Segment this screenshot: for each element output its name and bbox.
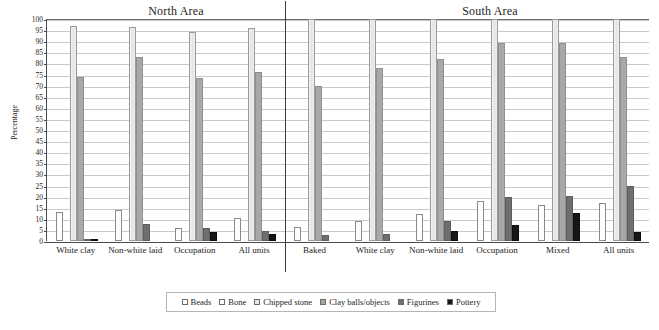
bar-pottery <box>573 213 580 241</box>
x-axis-label: Baked <box>284 245 345 256</box>
bar-group-bars <box>589 20 650 241</box>
bar-group-bars <box>285 20 346 241</box>
y-tick-label: 20 <box>17 194 43 202</box>
bar-beads <box>416 214 423 241</box>
bar-figurines <box>505 197 512 241</box>
x-axis-label: Occupation <box>467 245 528 256</box>
bar-group-bars <box>47 20 107 241</box>
y-tick-label: 5 <box>17 227 43 235</box>
y-tick-label: 65 <box>17 94 43 102</box>
legend-label: Figurines <box>407 297 439 307</box>
bar-group-bars <box>107 20 167 241</box>
y-tick-label: 75 <box>17 72 43 80</box>
panel-divider <box>285 1 286 272</box>
legend-item-figurines[interactable]: Figurines <box>398 297 439 307</box>
bar-group <box>589 20 650 241</box>
chart-container: North Area South Area Percentage 0510152… <box>0 0 659 330</box>
legend-swatch-icon <box>219 299 225 305</box>
bar-clay-balls-objects <box>620 57 627 241</box>
x-axis-label: Mixed <box>527 245 588 256</box>
bar-clay-balls-objects <box>196 78 203 241</box>
legend-swatch-icon <box>398 299 404 305</box>
legend-swatch-icon <box>182 299 188 305</box>
bar-group <box>407 20 468 241</box>
bar-figurines <box>444 221 451 241</box>
bar-beads <box>115 210 122 241</box>
legend-item-bone[interactable]: Bone <box>219 297 246 307</box>
gridline <box>47 242 649 243</box>
bar-group <box>226 20 286 241</box>
legend-label: Clay balls/objects <box>329 297 390 307</box>
y-tick-label: 40 <box>17 149 43 157</box>
panel-title-south: South Area <box>340 4 640 19</box>
bar-clay-balls-objects <box>559 43 566 241</box>
bar-beads <box>538 205 545 241</box>
bar-group <box>166 20 226 241</box>
bar-group <box>107 20 167 241</box>
bar-pottery <box>634 232 641 241</box>
bar-figurines <box>203 228 210 241</box>
y-tick-label: 25 <box>17 183 43 191</box>
bar-clay-balls-objects <box>437 59 444 241</box>
legend-swatch-icon <box>447 299 453 305</box>
y-tick-label: 70 <box>17 83 43 91</box>
y-tick-label: 0 <box>17 238 43 246</box>
y-tick-label: 95 <box>17 27 43 35</box>
bar-pottery <box>451 231 458 241</box>
bar-group-bars <box>528 20 589 241</box>
bar-chipped-stone <box>129 27 136 241</box>
bar-clay-balls-objects <box>315 86 322 241</box>
bar-clay-balls-objects <box>136 57 143 241</box>
bar-figurines <box>383 234 390 241</box>
bar-group <box>346 20 407 241</box>
y-tick-label: 30 <box>17 171 43 179</box>
legend-item-beads[interactable]: Beads <box>182 297 212 307</box>
bar-beads <box>234 218 241 241</box>
bar-chipped-stone <box>552 19 559 241</box>
legend-label: Bone <box>228 297 246 307</box>
bar-clay-balls-objects <box>77 77 84 241</box>
y-tick-label: 100 <box>17 16 43 24</box>
x-axis-label: White clay <box>345 245 406 256</box>
y-tick-label: 50 <box>17 127 43 135</box>
bar-pottery <box>512 225 519 241</box>
bar-figurines <box>143 224 150 241</box>
bar-beads <box>477 201 484 241</box>
y-tick-label: 85 <box>17 49 43 57</box>
x-axis-label: Non-white laid <box>406 245 467 256</box>
bar-beads <box>355 221 362 241</box>
y-tick-label: 35 <box>17 160 43 168</box>
legend-item-chipped-stone[interactable]: Chipped stone <box>254 297 312 307</box>
legend-swatch-icon <box>320 299 326 305</box>
bar-beads <box>599 203 606 241</box>
panel-title-north: North Area <box>86 4 266 19</box>
bar-beads <box>175 228 182 241</box>
bar-figurines <box>627 186 634 242</box>
legend-label: Pottery <box>456 297 481 307</box>
bar-beads <box>294 227 301 241</box>
bar-figurines <box>262 231 269 241</box>
bar-chipped-stone <box>308 19 315 241</box>
x-axis-label: All units <box>588 245 649 256</box>
bar-group <box>47 20 107 241</box>
bar-chipped-stone <box>248 28 255 241</box>
x-axis-label: All units <box>225 245 285 256</box>
bar-group <box>468 20 529 241</box>
bar-figurines <box>322 235 329 241</box>
bar-chipped-stone <box>430 19 437 241</box>
legend-item-clay-balls-objects[interactable]: Clay balls/objects <box>320 297 390 307</box>
y-tick-label: 80 <box>17 60 43 68</box>
bar-clay-balls-objects <box>498 43 505 241</box>
y-tick-label: 60 <box>17 105 43 113</box>
bar-group-bars <box>346 20 407 241</box>
plot-area: 0510152025303540455055606570758085909510… <box>46 19 649 241</box>
y-tick-label: 10 <box>17 216 43 224</box>
bar-figurines <box>566 196 573 242</box>
y-tick-label: 15 <box>17 205 43 213</box>
bar-chipped-stone <box>491 19 498 241</box>
legend-item-pottery[interactable]: Pottery <box>447 297 481 307</box>
y-tick-mark <box>44 242 47 243</box>
bar-group-bars <box>407 20 468 241</box>
legend-label: Chipped stone <box>263 297 312 307</box>
x-axis-label: Occupation <box>165 245 225 256</box>
